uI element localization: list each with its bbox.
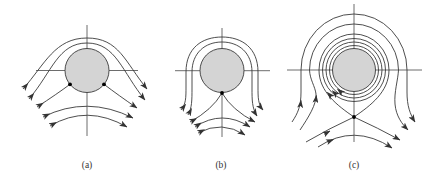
dividing-streamline-in xyxy=(37,84,70,107)
panel-label-b: (b) xyxy=(215,160,226,171)
stagnation-point-right-icon xyxy=(102,82,106,86)
saddle-point-icon xyxy=(352,115,356,119)
dividing-streamline-in xyxy=(306,117,354,142)
streamline-lower xyxy=(195,118,250,127)
dividing-streamline-out xyxy=(354,117,400,140)
panel-c: (c) xyxy=(287,4,422,171)
streamline-lower xyxy=(43,106,133,118)
panel-b: (b) xyxy=(175,28,270,171)
cylinder xyxy=(65,49,109,93)
cylinder xyxy=(200,49,244,93)
arrowhead-icon xyxy=(316,96,317,101)
stagnation-point-icon xyxy=(220,91,224,95)
panel-label-c: (c) xyxy=(349,160,360,171)
streamline-lowest xyxy=(198,127,245,135)
panel-a: (a) xyxy=(23,25,147,171)
dividing-streamline-out xyxy=(222,93,255,122)
streamline-lowest xyxy=(50,115,127,127)
arrowhead-icon xyxy=(301,101,302,106)
panel-label-a: (a) xyxy=(82,160,93,171)
diagram-canvas: (a) (b) xyxy=(0,0,437,181)
stagnation-point-left-icon xyxy=(68,82,72,86)
streamline-figure: (a) (b) xyxy=(0,0,437,181)
dividing-streamline-out xyxy=(104,84,137,108)
cylinder xyxy=(333,49,376,92)
dividing-streamline-in xyxy=(190,93,222,122)
